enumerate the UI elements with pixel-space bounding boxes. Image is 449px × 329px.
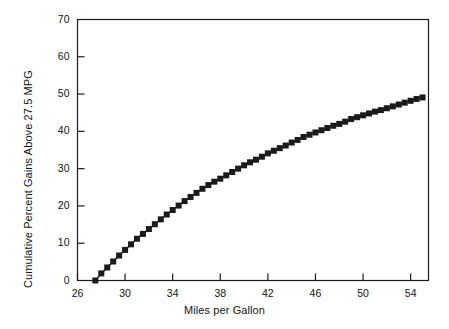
data-point-marker bbox=[384, 105, 390, 111]
data-point-marker bbox=[223, 172, 229, 178]
data-point-marker bbox=[408, 98, 414, 104]
data-point-marker bbox=[152, 221, 158, 227]
data-point-marker bbox=[211, 179, 217, 185]
data-point-marker bbox=[104, 264, 110, 270]
data-point-marker bbox=[330, 123, 336, 129]
data-point-marker bbox=[122, 247, 128, 253]
data-point-marker bbox=[140, 231, 146, 237]
data-point-marker bbox=[253, 157, 259, 163]
data-point-marker bbox=[98, 270, 104, 276]
data-point-marker bbox=[295, 137, 301, 143]
data-point-marker bbox=[348, 116, 354, 122]
series-line bbox=[95, 97, 422, 280]
data-point-marker bbox=[170, 207, 176, 213]
data-point-marker bbox=[360, 112, 366, 118]
data-point-marker bbox=[217, 176, 223, 182]
data-point-marker bbox=[259, 154, 265, 160]
data-point-marker bbox=[241, 162, 247, 168]
data-point-marker bbox=[92, 278, 98, 284]
data-point-marker bbox=[318, 127, 324, 133]
data-point-marker bbox=[182, 198, 188, 204]
data-point-marker bbox=[336, 121, 342, 127]
data-point-marker bbox=[271, 148, 277, 154]
data-point-marker bbox=[265, 150, 271, 156]
data-point-marker bbox=[312, 129, 318, 135]
data-series-markers bbox=[92, 94, 425, 283]
data-point-marker bbox=[414, 96, 420, 102]
data-point-marker bbox=[134, 236, 140, 242]
data-point-marker bbox=[188, 194, 194, 200]
data-point-marker bbox=[378, 107, 384, 113]
data-point-marker bbox=[229, 169, 235, 175]
data-point-marker bbox=[324, 125, 330, 131]
data-point-marker bbox=[342, 119, 348, 125]
data-point-marker bbox=[164, 212, 170, 218]
plot-area bbox=[0, 0, 449, 329]
data-point-marker bbox=[301, 134, 307, 140]
data-point-marker bbox=[402, 100, 408, 106]
data-point-marker bbox=[307, 132, 313, 138]
data-point-marker bbox=[205, 182, 211, 188]
data-point-marker bbox=[146, 226, 152, 232]
y-axis-ticks bbox=[78, 57, 85, 243]
data-point-marker bbox=[372, 109, 378, 115]
data-point-marker bbox=[176, 203, 182, 209]
data-point-marker bbox=[354, 114, 360, 120]
data-point-marker bbox=[283, 143, 289, 149]
data-point-marker bbox=[193, 190, 199, 196]
data-point-marker bbox=[366, 110, 372, 116]
x-axis-ticks bbox=[78, 274, 411, 281]
data-point-marker bbox=[158, 216, 164, 222]
data-point-marker bbox=[110, 258, 116, 264]
chart-figure: Cumulative Percent Gains Above 27.5 MPG … bbox=[0, 0, 449, 329]
data-point-marker bbox=[396, 102, 402, 108]
data-point-marker bbox=[128, 241, 134, 247]
data-series-line bbox=[95, 97, 422, 280]
data-point-marker bbox=[235, 166, 241, 172]
data-point-marker bbox=[420, 94, 426, 100]
data-point-marker bbox=[289, 140, 295, 146]
data-point-marker bbox=[390, 103, 396, 109]
data-point-marker bbox=[116, 253, 122, 259]
data-point-marker bbox=[199, 186, 205, 192]
data-point-marker bbox=[247, 159, 253, 165]
data-point-marker bbox=[277, 145, 283, 151]
